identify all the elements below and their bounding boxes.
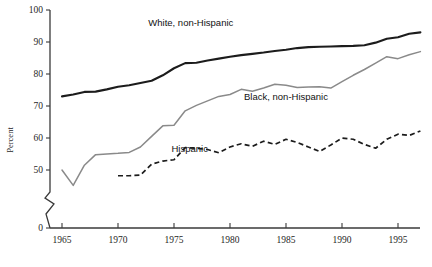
x-tick-label-1980: 1980 (221, 235, 240, 245)
y-tick-label-60: 60 (34, 133, 44, 143)
x-tick-label-1985: 1985 (277, 235, 296, 245)
y-tick-labels: 05060708090100 (29, 5, 44, 233)
x-tick-label-1990: 1990 (333, 235, 352, 245)
series-label-black-non-hispanic: Black, non-Hispanic (244, 91, 328, 102)
x-tick-label-1995: 1995 (389, 235, 408, 245)
y-tick-label-80: 80 (34, 69, 44, 79)
x-tick-label-1975: 1975 (165, 235, 184, 245)
line-chart: Percent 05060708090100 19651970197519801… (0, 0, 432, 267)
y-axis-break-symbol (45, 170, 54, 228)
series-line-black-non-hispanic (62, 52, 420, 186)
figure-container: Percent 05060708090100 19651970197519801… (0, 0, 432, 267)
series-label-white-non-hispanic: White, non-Hispanic (148, 17, 233, 28)
y-tick-label-70: 70 (34, 101, 44, 111)
y-axis-title: Percent (5, 127, 15, 153)
chart-axes (45, 10, 420, 228)
x-tick-label-1970: 1970 (109, 235, 128, 245)
series-line-white-non-hispanic (62, 32, 420, 96)
x-tick-labels: 1965197019751980198519901995 (53, 235, 408, 245)
series-line-hispanic (118, 131, 420, 176)
series-label-hispanic: Hispanic (171, 143, 208, 154)
y-tick-label-0: 0 (38, 223, 43, 233)
y-tick-label-50: 50 (34, 165, 44, 175)
y-tick-label-90: 90 (34, 37, 44, 47)
x-tick-label-1965: 1965 (53, 235, 72, 245)
y-tick-label-100: 100 (29, 5, 44, 15)
